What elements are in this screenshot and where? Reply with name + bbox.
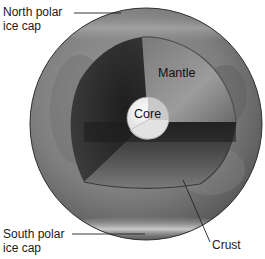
diagram-canvas [0, 0, 265, 259]
south-polar-ice-cap-label: South polar ice cap [3, 227, 64, 255]
north-label-line2: ice cap [3, 19, 62, 33]
south-label-line2: ice cap [3, 241, 64, 255]
planet-cutaway-diagram: North polar ice cap Mantle Core South po… [0, 0, 265, 259]
crust-label: Crust [212, 238, 241, 252]
north-label-line1: North polar [3, 5, 62, 19]
north-polar-ice-cap-label: North polar ice cap [3, 5, 62, 33]
core-label: Core [134, 107, 161, 121]
mantle-label: Mantle [158, 66, 196, 80]
south-label-line1: South polar [3, 227, 64, 241]
